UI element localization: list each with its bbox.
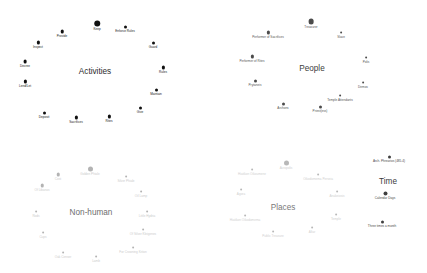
node-point[interactable]: Oikodomema Perseia: [318, 175, 319, 176]
node-point[interactable]: Temple: [336, 215, 337, 216]
cluster-title-places: Places: [271, 203, 296, 212]
node-point[interactable]: Altar: [312, 228, 313, 229]
node-label: Acropolis: [280, 166, 293, 169]
node-label: Agora: [237, 192, 245, 195]
node-label: Anakeiosis: [330, 194, 345, 197]
node-label: Oikodomema Perseia: [303, 177, 333, 180]
cluster-places: PlacesAcropolisOikodomema PerseiaAnakeio…: [0, 0, 427, 273]
node-label: Hiatikon Oikodomema: [230, 218, 260, 221]
node-point[interactable]: Public Treasure: [273, 232, 274, 233]
node-point[interactable]: Agora: [241, 190, 242, 191]
node-label: Hiatikon Oikoumene: [238, 172, 266, 175]
scatter-canvas: ActivitiesKeepEnforce RulesGuardRulesMai…: [0, 0, 427, 273]
node-label: Altar: [309, 230, 315, 233]
node-label: Public Treasure: [262, 234, 284, 237]
node-point[interactable]: Hiatikon Oikoumene: [252, 170, 253, 171]
node-point[interactable]: Anakeiosis: [337, 192, 338, 193]
node-point[interactable]: Acropolis: [286, 163, 287, 164]
node-point[interactable]: Hiatikon Oikodomema: [245, 216, 246, 217]
node-label: Temple: [331, 217, 341, 220]
